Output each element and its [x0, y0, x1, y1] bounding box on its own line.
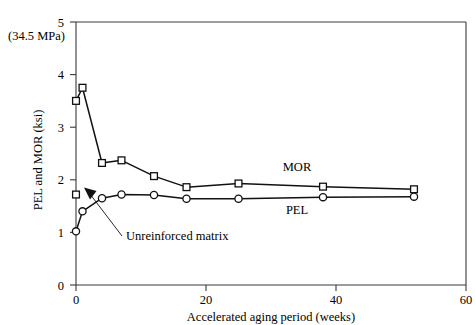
data-point-pel-4: [150, 191, 157, 198]
data-point-mor-1: [79, 84, 86, 91]
chart-page: 0 1 2 3 4 5 0 20 40 60 Accelerated aging…: [0, 0, 475, 325]
x-axis-ticks: [76, 285, 466, 291]
annotation-arrow-head: [84, 188, 97, 200]
x-tick-label-60: 60: [460, 293, 473, 307]
pel-mor-aging-line-chart: 0 1 2 3 4 5 0 20 40 60 Accelerated aging…: [0, 0, 475, 325]
x-tick-label-40: 40: [330, 293, 343, 307]
annotation-leader-line: [90, 194, 122, 236]
x-tick-label-0: 0: [73, 293, 79, 307]
y-tick-label-3: 3: [58, 121, 64, 135]
y-tick-label-2: 2: [58, 173, 64, 187]
unreinforced-matrix-marker: [73, 191, 80, 198]
y-tick-label-1: 1: [58, 226, 64, 240]
y-axis-ticks: [70, 22, 76, 285]
series-label-mor: MOR: [283, 160, 312, 174]
y-tick-label-5: 5: [58, 16, 64, 30]
series-mor: [73, 84, 418, 192]
x-tick-label-20: 20: [200, 293, 213, 307]
y-tick-label-4: 4: [58, 68, 65, 82]
data-point-pel-8: [410, 193, 417, 200]
y-axis-title: PEL and MOR (ksi): [31, 110, 45, 211]
x-axis-tick-labels: 0 20 40 60: [73, 293, 472, 307]
x-axis-title: Accelerated aging period (weeks): [187, 310, 355, 324]
data-point-pel-3: [118, 191, 125, 198]
data-point-mor-7: [320, 183, 327, 190]
data-point-pel-6: [235, 195, 242, 202]
annotation-label-unreinforced-matrix: Unreinforced matrix: [126, 229, 229, 243]
data-point-pel-5: [183, 195, 190, 202]
data-point-pel-1: [79, 208, 86, 215]
plot-frame: [76, 22, 466, 285]
y-tick-label-0: 0: [58, 279, 64, 293]
data-point-mor-0: [73, 98, 80, 105]
data-point-mor-8: [411, 186, 418, 193]
data-point-mor-6: [235, 180, 242, 187]
data-point-pel-0: [72, 228, 79, 235]
data-point-mor-5: [183, 184, 190, 191]
data-point-pel-7: [319, 194, 326, 201]
data-point-mor-2: [99, 160, 106, 167]
series-pel: [72, 191, 417, 235]
data-point-mor-4: [151, 173, 158, 180]
y-axis-tick-labels: 0 1 2 3 4 5: [58, 16, 65, 293]
series-line-mor: [76, 88, 414, 190]
unit-note: (34.5 MPa): [8, 29, 65, 43]
series-label-pel: PEL: [286, 203, 308, 217]
data-series-layer: [72, 84, 417, 235]
series-line-pel: [76, 195, 414, 232]
data-point-pel-2: [98, 195, 105, 202]
data-point-mor-3: [118, 157, 125, 164]
